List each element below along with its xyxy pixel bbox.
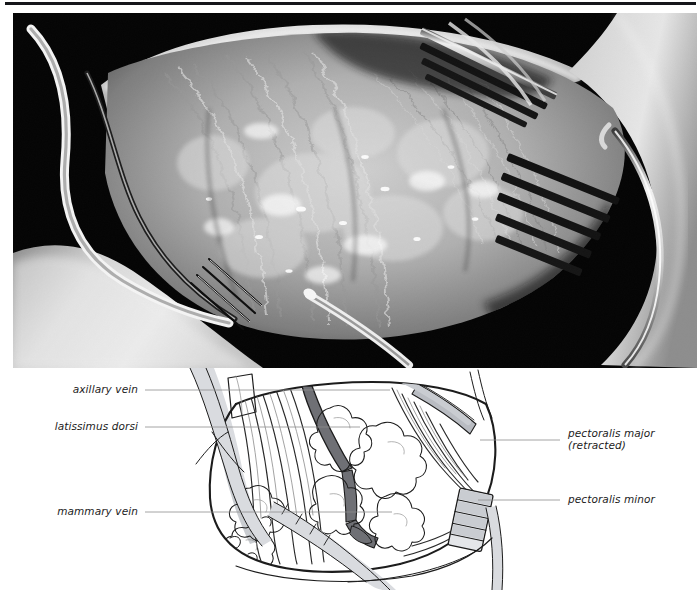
figure-root: axillary vein latissimus dorsi mammary v… — [0, 0, 700, 590]
top-rule — [5, 2, 696, 5]
label-pectoralis-major: pectoralis major — [567, 427, 655, 439]
label-pectoralis-major-qualifier: (retracted) — [568, 439, 626, 451]
anatomical-line-diagram: axillary vein latissimus dorsi mammary v… — [0, 368, 700, 590]
diagram-canvas: axillary vein latissimus dorsi mammary v… — [0, 368, 700, 590]
label-mammary-vein: mammary vein — [57, 505, 138, 517]
label-pectoralis-minor: pectoralis minor — [567, 493, 656, 505]
surgical-photograph — [13, 13, 697, 368]
photograph-canvas — [13, 13, 697, 368]
label-latissimus-dorsi: latissimus dorsi — [55, 420, 138, 432]
label-axillary-vein: axillary vein — [73, 383, 138, 395]
